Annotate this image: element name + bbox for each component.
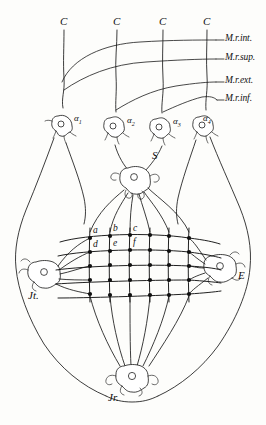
ganglion-label-alpha-2: α2 — [127, 116, 135, 127]
ganglion-label-alpha-3: α3 — [173, 117, 181, 128]
ganglion-cell-alpha-1 — [45, 115, 76, 143]
grid-point-label-c: c — [133, 224, 137, 234]
ganglion-label-alpha-4: α4 — [203, 114, 211, 125]
muscle-label-rectus-externus: M.r.ext. — [225, 76, 253, 86]
nerve-root-label-c3: C — [159, 16, 166, 27]
figure-canvas: C C C C M.r.int. M.r.sup. M.r.ext. M.r.i… — [0, 0, 266, 425]
superior-fiber-fan — [90, 188, 189, 232]
nerve-root-label-c2: C — [113, 16, 120, 27]
muscle-label-rectus-internus: M.r.int. — [225, 34, 252, 44]
grid-point-label-f: f — [133, 238, 136, 248]
alpha-subscript-1: 1 — [79, 119, 82, 125]
ganglion-cell-alpha-3 — [150, 118, 175, 145]
figure-drawing — [0, 0, 266, 425]
node-label-superior: S — [152, 150, 158, 161]
muscle-lead-lines — [62, 40, 224, 112]
grid-point-label-d: d — [93, 240, 98, 250]
grid-horizontal-lines — [56, 235, 221, 298]
grid-point-label-b: b — [113, 224, 118, 234]
inferior-fiber-fan — [90, 296, 189, 366]
ganglion-cell-alpha-2 — [104, 117, 129, 144]
node-label-right: E — [238, 270, 245, 281]
nerve-root-label-c4: C — [203, 16, 210, 27]
retinal-node-superior — [111, 167, 159, 200]
alpha-subscript-3: 3 — [178, 122, 181, 128]
alpha-subscript-4: 4 — [208, 119, 211, 125]
grid-point-label-e: e — [113, 239, 117, 249]
nerve-root-label-c1: C — [60, 16, 67, 27]
node-label-inferior: Jr. — [108, 392, 119, 403]
node-label-left: Jt. — [28, 290, 39, 301]
muscle-label-rectus-superior: M.r.sup. — [225, 53, 255, 63]
muscle-label-rectus-inferior: M.r.inf. — [225, 94, 252, 104]
left-fiber-fan — [56, 238, 90, 294]
retinal-node-left — [19, 259, 60, 291]
alpha-subscript-2: 2 — [132, 121, 135, 127]
ganglion-label-alpha-1: α1 — [74, 114, 82, 125]
grid-point-label-a: a — [93, 226, 98, 236]
